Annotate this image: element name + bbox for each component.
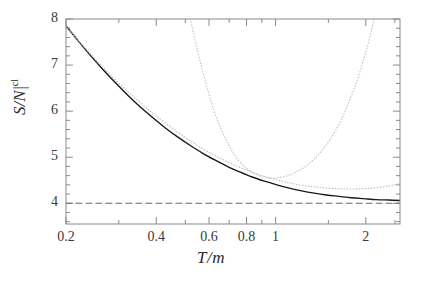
y-axis-label-text: S/N|cl — [10, 79, 29, 115]
x-axis-label-text: T/m — [197, 248, 225, 267]
y-axis-label-superscript: cl — [9, 79, 20, 86]
x-tick-label: 2 — [336, 229, 396, 245]
y-tick-label: 4 — [18, 194, 58, 210]
y-axis-label-bar: | — [10, 86, 29, 90]
figure-panel: 0.20.40.60.812 45678 T/m S/N|cl — [0, 0, 422, 282]
x-axis-label: T/m — [0, 248, 422, 268]
x-tick-label: 0.2 — [36, 229, 96, 245]
x-tick-label: 0.4 — [126, 229, 186, 245]
y-axis-label-main: S/N — [10, 91, 29, 116]
y-axis-label: S/N|cl — [9, 7, 39, 187]
x-tick-label: 1 — [246, 229, 306, 245]
